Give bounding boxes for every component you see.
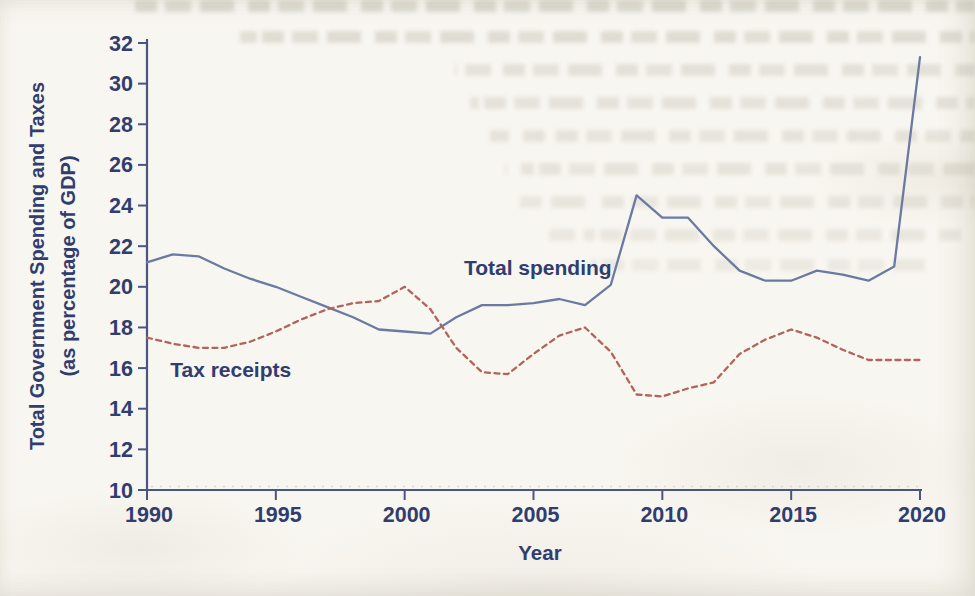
y-tick-label: 16: [109, 357, 133, 381]
x-tick-label: 1990: [125, 503, 173, 527]
y-tick-label: 26: [109, 153, 133, 177]
y-tick-label: 20: [109, 275, 133, 299]
y-tick-label: 12: [109, 438, 133, 462]
series-label-total-spending: Total spending: [464, 256, 612, 279]
x-tick-label: 2010: [640, 503, 688, 527]
y-tick-label: 22: [109, 235, 133, 259]
y-tick-label: 14: [109, 397, 133, 421]
y-axis-title: Total Government Spending and Taxes(as p…: [26, 82, 79, 450]
series-label-tax-receipts: Tax receipts: [170, 358, 291, 381]
y-tick-label: 24: [109, 194, 133, 218]
x-tick-label: 2015: [769, 503, 817, 527]
scanned-textbook-page: 1012141618202224262830321990199520002005…: [0, 0, 975, 596]
x-axis-title: Year: [518, 541, 561, 564]
total-spending-line: [147, 57, 920, 333]
x-tick-label: 2000: [383, 503, 431, 527]
x-tick-label: 2020: [898, 503, 946, 527]
x-tick-label: 1995: [254, 503, 302, 527]
y-tick-label: 28: [109, 113, 133, 137]
y-tick-label: 18: [109, 316, 133, 340]
y-tick-label: 32: [109, 32, 133, 56]
y-tick-label: 10: [109, 479, 133, 503]
spending-and-taxes-line-chart: 1012141618202224262830321990199520002005…: [0, 0, 975, 596]
x-tick-label: 2005: [512, 503, 560, 527]
y-tick-label: 30: [109, 72, 133, 96]
